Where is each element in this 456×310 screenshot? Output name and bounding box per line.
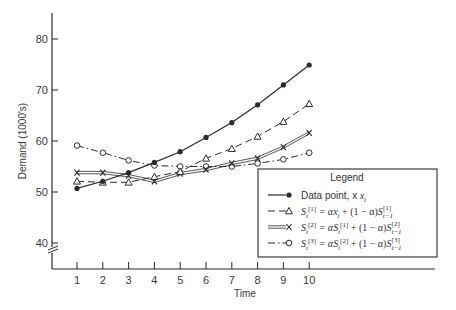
y-tick-label: 40 <box>36 237 48 249</box>
open-circle-marker-icon <box>255 161 261 167</box>
x-marker-icon <box>74 170 79 176</box>
y-tick-label: 70 <box>36 84 48 96</box>
filled-circle-marker-icon <box>178 149 183 154</box>
filled-circle-marker-icon <box>281 82 286 87</box>
demand-chart: 405060708012345678910 LegendData point, … <box>0 0 456 310</box>
open-circle-marker-icon <box>100 150 106 156</box>
open-triangle-marker-icon <box>306 100 313 106</box>
open-circle-marker-icon <box>281 157 287 163</box>
open-circle-marker-icon <box>126 158 132 164</box>
filled-circle-marker-icon <box>229 120 234 125</box>
filled-circle-marker-icon <box>126 170 131 175</box>
y-tick-label: 80 <box>36 33 48 45</box>
x-tick-label: 4 <box>151 274 157 286</box>
filled-circle-marker-icon <box>286 192 291 197</box>
y-axis-title: Demand (1000's) <box>17 103 28 179</box>
open-triangle-marker-icon <box>280 118 287 124</box>
open-triangle-marker-icon <box>203 155 210 161</box>
open-circle-marker-icon <box>306 150 312 156</box>
open-triangle-marker-icon <box>254 133 261 139</box>
filled-circle-marker-icon <box>307 62 312 67</box>
filled-circle-marker-icon <box>255 102 260 107</box>
legend: LegendData point, x xtSt[1] = αxt + (1 −… <box>258 169 437 257</box>
x-tick-label: 7 <box>229 274 235 286</box>
x-tick-label: 2 <box>100 274 106 286</box>
x-tick-label: 9 <box>280 274 286 286</box>
x-tick-label: 5 <box>177 274 183 286</box>
filled-circle-marker-icon <box>203 135 208 140</box>
y-tick-label: 50 <box>36 186 48 198</box>
open-circle-marker-icon <box>286 240 292 246</box>
filled-circle-marker-icon <box>100 179 105 184</box>
x-tick-label: 8 <box>255 274 261 286</box>
y-tick-label: 60 <box>36 135 48 147</box>
filled-circle-marker-icon <box>152 160 157 165</box>
x-tick-label: 10 <box>303 274 315 286</box>
filled-circle-marker-icon <box>74 186 79 191</box>
open-circle-marker-icon <box>74 143 80 149</box>
series-line <box>77 146 309 167</box>
x-tick-label: 3 <box>126 274 132 286</box>
x-axis-title: Time <box>234 288 256 299</box>
series-open-circle <box>74 143 312 170</box>
x-tick-label: 6 <box>203 274 209 286</box>
x-tick-label: 1 <box>74 274 80 286</box>
legend-title: Legend <box>330 172 363 183</box>
x-marker-icon <box>100 170 105 176</box>
open-triangle-marker-icon <box>228 145 235 151</box>
